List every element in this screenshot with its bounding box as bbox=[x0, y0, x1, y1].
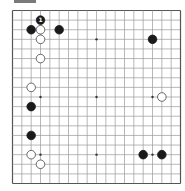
move-number-label: 1 bbox=[38, 16, 42, 23]
white-stone-circle bbox=[36, 160, 45, 169]
star-point bbox=[151, 96, 153, 98]
star-point bbox=[151, 153, 153, 155]
white-stone[interactable] bbox=[27, 150, 36, 159]
white-stone[interactable] bbox=[36, 160, 45, 169]
white-stone[interactable] bbox=[158, 93, 167, 102]
white-stone-circle bbox=[36, 54, 45, 63]
star-point bbox=[95, 153, 97, 155]
black-stone[interactable] bbox=[158, 150, 167, 159]
black-stone-circle bbox=[27, 102, 36, 111]
white-stone-circle bbox=[36, 25, 45, 34]
black-stone-circle bbox=[158, 150, 167, 159]
white-stone[interactable] bbox=[36, 35, 45, 44]
black-stone-circle bbox=[139, 150, 148, 159]
white-stone-circle bbox=[36, 35, 45, 44]
white-stone[interactable] bbox=[27, 83, 36, 92]
black-stone[interactable]: 1 bbox=[36, 16, 45, 25]
black-stone[interactable] bbox=[27, 131, 36, 140]
white-stone[interactable] bbox=[36, 54, 45, 63]
black-stone-circle bbox=[148, 35, 157, 44]
star-point bbox=[95, 96, 97, 98]
black-stone-circle bbox=[27, 131, 36, 140]
black-stone[interactable] bbox=[27, 102, 36, 111]
white-stone-circle bbox=[158, 93, 167, 102]
star-point bbox=[39, 96, 41, 98]
white-stone-circle bbox=[27, 150, 36, 159]
black-stone[interactable] bbox=[148, 35, 157, 44]
black-stone[interactable] bbox=[55, 25, 64, 34]
black-stone-circle bbox=[55, 25, 64, 34]
star-point bbox=[95, 38, 97, 40]
go-board: 1 bbox=[0, 0, 185, 191]
black-stone-circle bbox=[27, 25, 36, 34]
star-point bbox=[39, 153, 41, 155]
white-stone-circle bbox=[27, 83, 36, 92]
white-stone[interactable] bbox=[36, 25, 45, 34]
black-stone[interactable] bbox=[27, 25, 36, 34]
black-stone[interactable] bbox=[139, 150, 148, 159]
